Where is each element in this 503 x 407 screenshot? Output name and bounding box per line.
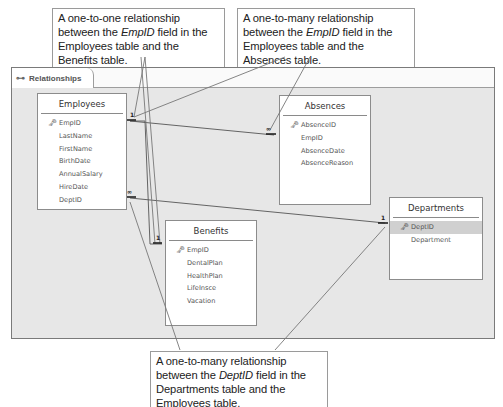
relationship-lines: 1 ∞ ∞ 1 1 — [0, 0, 503, 407]
join-line-empid-benefits[interactable] — [130, 121, 162, 244]
one-symbol: 1 — [130, 111, 134, 118]
one-symbol: 1 — [381, 214, 385, 221]
join-line-deptid-departments[interactable] — [130, 198, 385, 223]
many-symbol: ∞ — [266, 125, 271, 132]
join-line-empid-absences[interactable] — [130, 121, 274, 135]
one-symbol: 1 — [156, 234, 160, 241]
many-symbol: ∞ — [127, 188, 132, 195]
